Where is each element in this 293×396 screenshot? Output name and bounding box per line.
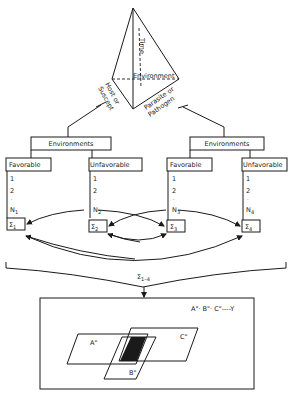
disease-tetrahedron-diagram: Time Environment Host or Suscept Parasit… [0, 0, 293, 396]
item-ellipsis: · [173, 196, 175, 202]
item-1: 1 [246, 175, 250, 183]
time-label: Time [138, 37, 146, 54]
branch-left: Environments Favorable 1 2 · N1 Σ1 Unfav… [6, 137, 142, 232]
item-2: 2 [93, 187, 97, 195]
unfavorable-label: Unfavorable [90, 161, 130, 169]
branch-right: Environments Favorable 1 2 · N3 Σ3 Unfav… [167, 137, 287, 232]
item-ellipsis: · [247, 196, 249, 202]
item-n1: N1 [10, 206, 18, 215]
result-box: A"· B"· C"----Y A" C" B" [40, 298, 254, 389]
environments-header: Environments [205, 140, 251, 148]
set-b-label: B" [129, 369, 136, 377]
item-1: 1 [93, 175, 97, 183]
item-1: 1 [172, 175, 176, 183]
result-formula: A"· B"· C"----Y [191, 305, 234, 313]
item-ellipsis: · [94, 196, 96, 202]
item-ellipsis: · [11, 196, 13, 202]
item-1: 1 [10, 175, 14, 183]
sum-arrows [26, 210, 242, 261]
item-2: 2 [10, 187, 14, 195]
item-n4: N4 [246, 206, 254, 215]
sum-total: Σ1–4 [137, 273, 150, 282]
item-2: 2 [172, 187, 176, 195]
environments-header: Environments [49, 140, 95, 148]
item-2: 2 [246, 187, 250, 195]
unfavorable-label: Unfavorable [243, 161, 283, 169]
favorable-label: Favorable [9, 161, 41, 169]
favorable-label: Favorable [170, 161, 202, 169]
set-a-label: A" [90, 339, 97, 347]
environment-label: Environment [133, 72, 175, 80]
total-brace: Σ1–4 [6, 262, 286, 297]
tetrahedron: Time Environment Host or Suscept Parasit… [96, 8, 179, 119]
set-c-label: C" [180, 333, 188, 341]
